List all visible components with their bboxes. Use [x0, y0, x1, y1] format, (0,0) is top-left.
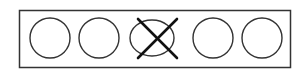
circle-4: [193, 18, 233, 58]
crossed-circle-3: [130, 20, 174, 56]
circle-1: [30, 18, 70, 58]
circle-5: [242, 18, 282, 58]
cross-mark-icon: [138, 19, 177, 58]
frame-rectangle: [20, 11, 291, 68]
circle-2: [79, 18, 119, 58]
diagram-canvas: [0, 0, 300, 72]
